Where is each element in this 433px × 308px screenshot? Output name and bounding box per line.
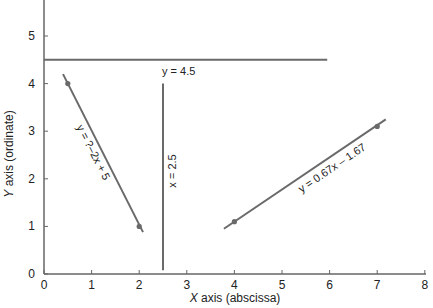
y-tick-label: 1 — [28, 219, 35, 233]
y-ticks: 012345 — [28, 29, 48, 281]
line-neg2x-plus-5: y = ?–2x + 5 — [63, 74, 143, 232]
y-axis-title-rest: axis (ordinate) — [2, 110, 16, 189]
line-0-67x-minus-1-67: y = 0.67x – 1.67 — [224, 119, 386, 228]
line-y-4-5: y = 4.5 — [44, 60, 327, 77]
y-axis-title: Y axis (ordinate) — [2, 110, 16, 197]
line-label: y = 0.67x – 1.67 — [296, 141, 368, 195]
x-tick-label: 1 — [88, 278, 95, 292]
x-tick-label: 5 — [279, 278, 286, 292]
x-tick-label: 8 — [421, 278, 428, 292]
x-tick-label: 3 — [183, 278, 190, 292]
y-tick-label: 2 — [28, 172, 35, 186]
line-x-2-5: x = 2.5 — [163, 84, 178, 271]
data-point — [65, 81, 70, 86]
line-label: y = 4.5 — [162, 65, 195, 77]
x-tick-label: 6 — [326, 278, 333, 292]
x-tick-label: 7 — [374, 278, 381, 292]
x-tick-label: 4 — [231, 278, 238, 292]
data-point — [375, 124, 380, 129]
chart: 012345678 012345 y = ?–2x + 5 y = 4.5 x … — [0, 0, 433, 308]
x-axis-title: X axis (abscissa) — [189, 291, 281, 305]
x-tick-label: 2 — [136, 278, 143, 292]
series-line — [63, 74, 143, 232]
y-tick-label: 5 — [28, 29, 35, 43]
y-tick-label: 3 — [28, 124, 35, 138]
line-label: y = ?–2x + 5 — [74, 122, 112, 181]
data-point — [232, 219, 237, 224]
line-label: x = 2.5 — [166, 154, 178, 187]
x-axis-title-rest: axis (abscissa) — [198, 291, 281, 305]
series-line — [224, 119, 386, 228]
y-tick-label: 0 — [28, 267, 35, 281]
data-point — [137, 224, 142, 229]
y-tick-label: 4 — [28, 77, 35, 91]
x-tick-label: 0 — [41, 278, 48, 292]
